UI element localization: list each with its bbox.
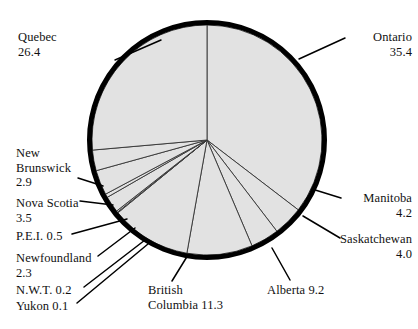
slice-label-saskatchewan-value: 4.0 [396,247,412,261]
slice-label-nwt-text: N.W.T. 0.2 [16,283,72,297]
slice-label-nova-scotia: Nova Scotia3.5 [16,196,79,225]
leader-line-pei [72,219,127,234]
slice-label-alberta-text: Alberta 9.2 [267,283,324,297]
slice-label-saskatchewan: Saskatchewan4.0 [340,232,412,261]
slice-label-new-brunswick-value: 2.9 [16,175,32,189]
slice-label-yukon-text: Yukon 0.1 [16,299,68,313]
slice-label-quebec: Quebec26.4 [18,30,57,59]
leader-line-british-columbia [172,255,188,281]
pie-slice-quebec [92,25,207,150]
slice-label-newfoundland-name: Newfoundland [16,251,92,265]
leader-line-alberta [272,248,290,280]
slice-label-manitoba-name: Manitoba [363,191,412,205]
slice-label-british-columbia-name: British [148,283,183,297]
slice-label-pei: P.E.I. 0.5 [16,229,63,244]
slice-label-ontario-name: Ontario [373,30,412,44]
slice-label-manitoba-value: 4.2 [396,206,412,220]
slice-label-new-brunswick-name1: New [16,146,40,160]
slice-label-alberta: Alberta 9.2 [267,283,324,298]
slice-label-yukon: Yukon 0.1 [16,299,68,314]
pie-slices [92,25,322,255]
slice-label-new-brunswick: NewBrunswick2.9 [16,146,71,190]
slice-label-nova-scotia-value: 3.5 [16,211,32,225]
slice-label-ontario-value: 35.4 [390,45,412,59]
leader-line-ontario [299,38,345,59]
slice-label-new-brunswick-name2: Brunswick [16,161,71,175]
leader-line-manitoba [312,189,341,198]
slice-label-pei-text: P.E.I. 0.5 [16,229,63,243]
slice-label-quebec-name: Quebec [18,30,57,44]
slice-label-newfoundland-value: 2.3 [16,266,32,280]
leader-line-nwt [84,240,145,287]
leader-line-saskatchewan [303,216,340,238]
slice-label-british-columbia-value: Columbia 11.3 [148,298,223,312]
pie-chart-figure: Quebec26.4 Ontario35.4 NewBrunswick2.9 N… [0,0,418,329]
slice-label-british-columbia: BritishColumbia 11.3 [148,283,223,312]
slice-label-nwt: N.W.T. 0.2 [16,283,72,298]
slice-label-manitoba: Manitoba4.2 [363,191,412,220]
slice-label-ontario: Ontario35.4 [373,30,412,59]
slice-label-quebec-value: 26.4 [18,45,40,59]
slice-label-saskatchewan-name: Saskatchewan [340,232,412,246]
slice-label-newfoundland: Newfoundland2.3 [16,251,92,280]
slice-label-nova-scotia-name: Nova Scotia [16,196,79,210]
